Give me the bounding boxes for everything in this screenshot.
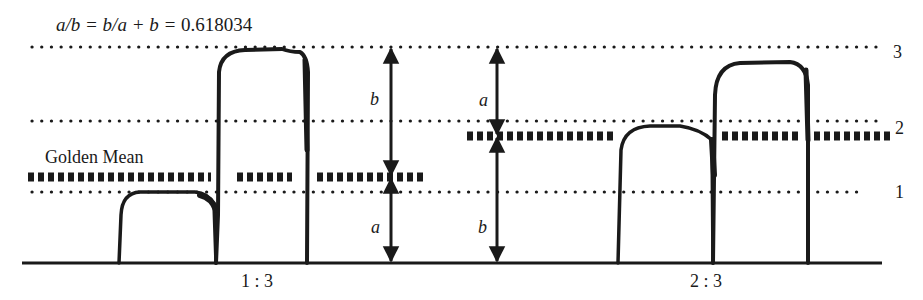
left-low-box bbox=[119, 192, 216, 263]
golden-mean-lines bbox=[28, 136, 893, 177]
right-ratio-label: 2 : 3 bbox=[690, 271, 722, 291]
formula-title: a/b = b/a + b = 0.618034 bbox=[56, 14, 253, 35]
level-2-label: 2 bbox=[895, 118, 904, 138]
level-guides bbox=[32, 47, 884, 192]
right-join-blob bbox=[712, 140, 714, 175]
golden-mean-label: Golden Mean bbox=[45, 147, 143, 167]
right-lower-label: b bbox=[478, 217, 487, 237]
right-medium-box bbox=[618, 126, 713, 263]
left-lower-label: a bbox=[371, 217, 380, 237]
right-tall-edge-shadow bbox=[806, 70, 808, 140]
left-tall-box bbox=[216, 49, 308, 263]
left-join-blob bbox=[200, 195, 216, 210]
level-3-label: 3 bbox=[893, 42, 902, 62]
left-figure bbox=[119, 49, 308, 263]
right-tall-box bbox=[713, 62, 808, 263]
right-figure bbox=[618, 62, 808, 263]
left-tall-edge-shadow bbox=[305, 60, 307, 150]
left-upper-label: b bbox=[370, 89, 379, 109]
left-ratio-label: 1 : 3 bbox=[241, 271, 273, 291]
golden-mean-diagram: a/b = b/a + b = 0.618034 3 2 1 Golden Me… bbox=[0, 0, 923, 300]
level-1-label: 1 bbox=[895, 182, 904, 202]
right-upper-label: a bbox=[479, 90, 488, 110]
